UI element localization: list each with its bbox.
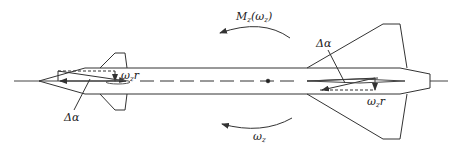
angular-velocity-arrow [222,118,292,128]
delta-alpha-left-label: Δα [63,111,80,124]
moment-label: Mz(ωz) [235,10,272,24]
omega-r-right-label: ωzr [367,95,386,109]
angular-velocity-label: ωz [253,130,266,144]
missile-diagram: Mz(ωz) ωz Δα Δα ωzr ωzr [0,0,459,151]
moment-arrow [220,27,290,38]
delta-alpha-right-label: Δα [315,37,332,50]
